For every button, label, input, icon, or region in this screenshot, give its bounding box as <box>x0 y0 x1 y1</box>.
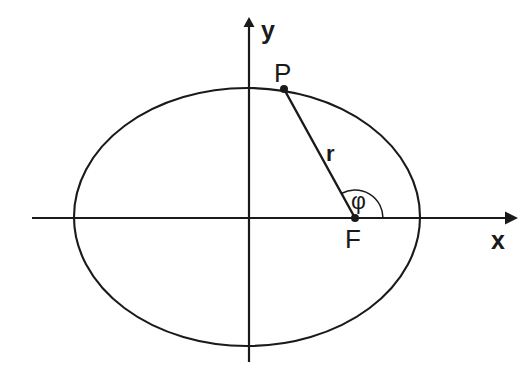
radius-vector-line <box>284 89 355 218</box>
focus-point-marker <box>351 214 359 222</box>
angle-phi-label: φ <box>351 190 366 213</box>
y-axis-arrowhead-icon <box>244 17 255 27</box>
diagram-canvas <box>0 0 532 375</box>
point-p-label: P <box>274 60 291 86</box>
x-axis-arrowhead-icon <box>505 212 518 225</box>
focus-f-label: F <box>345 226 361 252</box>
y-axis-label: y <box>261 18 275 43</box>
x-axis-label: x <box>491 228 505 253</box>
ellipse-polar-diagram: y x P F r φ <box>0 0 532 375</box>
radius-label: r <box>326 143 335 165</box>
